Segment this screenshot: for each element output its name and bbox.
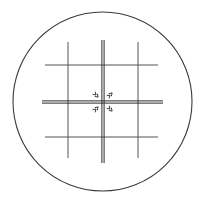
background [0, 0, 206, 203]
reticle-canvas [0, 0, 206, 203]
reticle-viewport [0, 0, 206, 203]
